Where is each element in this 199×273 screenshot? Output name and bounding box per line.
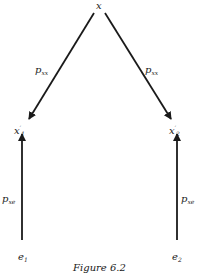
- node-x-label: x: [96, 0, 102, 11]
- node-x1-sub: 1: [21, 130, 25, 137]
- edge-label-e1-x1: pxe: [2, 194, 15, 205]
- node-x: x: [96, 1, 102, 11]
- edge-x-x2-sub: xx: [151, 69, 158, 76]
- edge-label-e2-x2: pxe: [181, 194, 194, 205]
- edge-label-x-x1: pxx: [35, 65, 48, 76]
- figure-caption: Figure 6.2: [0, 262, 199, 273]
- edge-e2-x2-sub: xe: [187, 198, 194, 205]
- edge-x-x1-sub: xx: [41, 69, 48, 76]
- node-x1: x′1: [14, 125, 25, 137]
- arrow-x-to-x2: [105, 13, 171, 119]
- node-x2-sub: 2: [176, 130, 180, 137]
- node-x2: x′2: [169, 125, 180, 137]
- edge-e1-x1-sub: xe: [8, 198, 15, 205]
- edge-label-x-x2: pxx: [145, 65, 158, 76]
